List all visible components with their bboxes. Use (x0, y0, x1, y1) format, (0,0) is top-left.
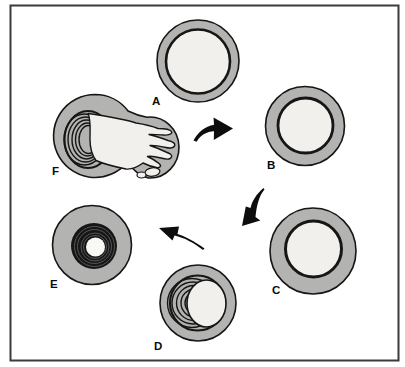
diagram-panel: A B C D E (0, 0, 405, 367)
stage-d-white-core (187, 280, 226, 327)
stage-b-inner-circle (278, 98, 333, 153)
stage-e: E (50, 206, 132, 291)
stage-c: C (270, 208, 356, 296)
stage-d-label: D (154, 340, 162, 352)
stage-a: A (152, 20, 239, 107)
stage-c-inner-circle (286, 221, 342, 277)
arrow-d-to-e-icon (159, 227, 205, 251)
stage-c-label: C (272, 284, 280, 296)
stage-e-label: E (50, 278, 58, 290)
arrow-b-to-c-icon (242, 188, 265, 226)
stage-e-white-core (86, 238, 105, 257)
stage-f-label: F (52, 165, 59, 177)
stage-f-small-lobe (137, 172, 146, 178)
stage-d: D (154, 265, 236, 352)
stage-b: B (266, 87, 345, 172)
stage-a-inner-circle (166, 30, 230, 94)
cycle-diagram-svg: A B C D E (0, 0, 405, 367)
stage-f: F (52, 95, 179, 179)
stage-a-label: A (152, 95, 160, 107)
stage-b-label: B (267, 159, 275, 171)
arrow-a-to-b-icon (194, 118, 234, 142)
